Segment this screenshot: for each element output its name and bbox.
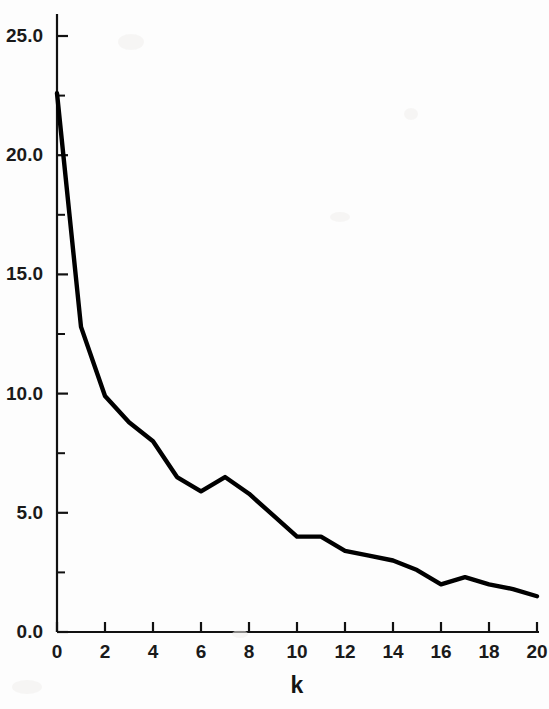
x-tick-label: 14 [382, 641, 403, 663]
x-tick-label: 20 [526, 641, 547, 663]
chart-series [57, 93, 537, 596]
line-chart-plot [0, 0, 549, 709]
chart-figure: 0.05.010.015.020.025.0 02468101214161820… [0, 0, 549, 709]
y-tick-label: 0.0 [0, 621, 43, 643]
x-tick-label: 6 [196, 641, 207, 663]
chart-ticks [57, 36, 537, 632]
y-tick-label: 25.0 [0, 25, 43, 47]
y-tick-label: 20.0 [0, 144, 43, 166]
x-axis-title: k [291, 672, 304, 699]
y-tick-label: 10.0 [0, 383, 43, 405]
x-tick-label: 2 [100, 641, 111, 663]
chart-axes [57, 14, 539, 632]
x-tick-label: 16 [430, 641, 451, 663]
y-tick-label: 15.0 [0, 263, 43, 285]
x-tick-label: 12 [334, 641, 355, 663]
x-tick-label: 8 [244, 641, 255, 663]
data-line-curve [57, 93, 537, 596]
x-tick-label: 0 [52, 641, 63, 663]
x-tick-label: 10 [286, 641, 307, 663]
x-tick-label: 18 [478, 641, 499, 663]
y-tick-label: 5.0 [0, 502, 43, 524]
x-tick-label: 4 [148, 641, 159, 663]
